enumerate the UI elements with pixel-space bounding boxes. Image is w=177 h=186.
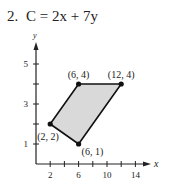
- x-axis-label: x: [153, 158, 159, 169]
- x-axis-arrow-icon: [143, 162, 151, 167]
- x-tick-label: 6: [76, 170, 81, 180]
- x-tick-label: 10: [103, 170, 113, 180]
- feasible-region-graph: xy261014135(2, 2)(6, 4)(12, 4)(6, 1): [0, 0, 177, 186]
- vertex-label: (6, 1): [82, 146, 104, 158]
- feasible-region: [50, 84, 121, 144]
- y-axis-label: y: [32, 31, 37, 40]
- vertex-label: (6, 4): [68, 69, 90, 81]
- y-tick-label: 1: [24, 139, 29, 149]
- vertex-point: [119, 81, 124, 86]
- vertex-label: (12, 4): [108, 69, 135, 81]
- vertex-point: [76, 81, 81, 86]
- y-tick-label: 5: [24, 59, 29, 69]
- y-tick-label: 3: [24, 99, 29, 109]
- vertex-point: [76, 141, 81, 146]
- y-axis-arrow-icon: [34, 42, 39, 50]
- x-tick-label: 14: [131, 170, 141, 180]
- x-tick-label: 2: [48, 170, 53, 180]
- vertex-label: (2, 2): [37, 131, 59, 143]
- vertex-point: [48, 121, 53, 126]
